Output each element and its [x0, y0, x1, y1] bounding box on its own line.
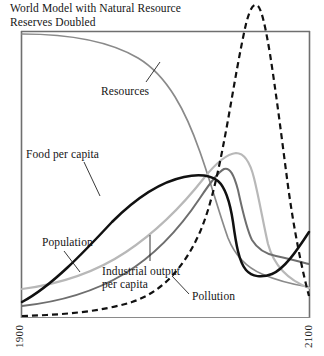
annotation-population: Population [42, 236, 93, 249]
annotation-industrial-output: Industrial output per capita [102, 265, 202, 291]
x-axis-tick-end: 2100 [303, 325, 314, 348]
annotation-food-per-capita: Food per capita [26, 148, 99, 161]
plot-area [0, 0, 324, 356]
annotation-industrial-line-2: per capita [102, 278, 202, 291]
leader-food [84, 162, 100, 196]
plot-svg [0, 0, 324, 356]
annotation-pollution: Pollution [192, 290, 235, 303]
x-axis-tick-start: 1900 [14, 325, 25, 348]
annotation-resources: Resources [101, 85, 149, 98]
figure-world-model: World Model with Natural Resource Reserv… [0, 0, 324, 356]
annotation-industrial-line-1: Industrial output [102, 265, 202, 278]
